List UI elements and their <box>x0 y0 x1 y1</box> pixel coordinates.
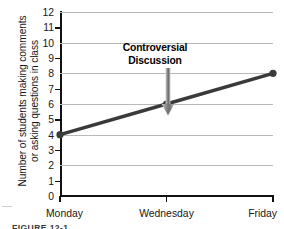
y-tick-label-11: 11 <box>43 22 54 33</box>
data-point-friday <box>269 70 276 77</box>
data-point-monday <box>56 131 63 138</box>
x-tick-label-wednesday: Wednesday <box>139 208 194 219</box>
y-tick-label-3: 3 <box>48 145 54 156</box>
y-tick-label-9: 9 <box>48 53 54 64</box>
x-tick-label-friday: Friday <box>248 208 277 219</box>
y-tick-label-8: 8 <box>48 68 54 79</box>
caption-rule <box>2 206 12 207</box>
y-tick-label-1: 1 <box>48 175 54 186</box>
y-tick-label-4: 4 <box>48 129 54 140</box>
annotation-line-2: Discussion <box>95 55 215 68</box>
x-tick-label-monday: Monday <box>46 208 83 219</box>
annotation-controversial-discussion: Controversial Discussion <box>95 42 215 68</box>
x-tick-mark-monday <box>59 196 60 202</box>
y-tick-label-5: 5 <box>48 114 54 125</box>
y-axis-title-line-2: or asking questions in class <box>29 40 41 162</box>
down-arrow-icon <box>161 68 175 116</box>
x-tick-mark-wednesday <box>166 196 167 202</box>
y-tick-label-2: 2 <box>48 160 54 171</box>
figure-caption: FIGURE 12-1 <box>12 223 68 229</box>
y-tick-label-6: 6 <box>48 99 54 110</box>
y-tick-label-10: 10 <box>42 37 54 48</box>
y-axis-title-line-1: Number of students making comments <box>17 16 29 187</box>
y-axis-title: Number of students making comments or as… <box>12 6 46 196</box>
y-tick-label-0: 0 <box>48 191 54 202</box>
x-tick-mark-friday <box>272 196 273 202</box>
figure-container: Number of students making comments or as… <box>0 0 284 229</box>
annotation-line-1: Controversial <box>95 42 215 55</box>
y-tick-label-12: 12 <box>42 7 54 18</box>
y-tick-label-7: 7 <box>48 83 54 94</box>
